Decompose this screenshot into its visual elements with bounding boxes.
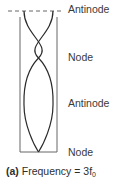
label-node-bottom: Node xyxy=(68,146,93,158)
wave-curve-left xyxy=(24,11,42,152)
caption-subscript: 0 xyxy=(92,171,96,178)
caption-part-label: (a) xyxy=(6,165,19,177)
label-antinode-top: Antinode xyxy=(68,3,109,15)
figure-caption: (a) Frequency = 3f0 xyxy=(6,165,96,178)
caption-text: Frequency = 3f xyxy=(22,165,92,177)
wave-curve-right xyxy=(35,11,53,152)
standing-wave-tube-diagram xyxy=(0,0,116,184)
label-antinode-middle: Antinode xyxy=(68,97,109,109)
label-node-middle: Node xyxy=(68,51,93,63)
